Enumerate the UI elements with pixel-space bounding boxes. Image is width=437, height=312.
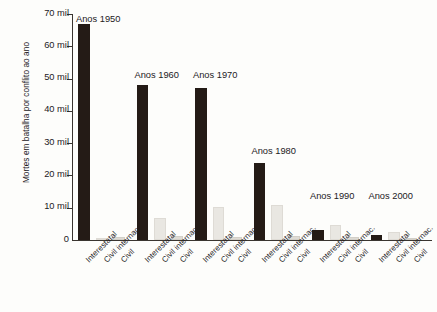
group-label-anos-1970: Anos 1970 xyxy=(193,70,237,80)
y-tick-label: 70 mil xyxy=(44,8,69,18)
y-axis-title: Mortes em batalha por conflito ao ano xyxy=(22,13,31,213)
group-label-anos-1960: Anos 1960 xyxy=(135,70,179,80)
bar-interestatal-anos-1950 xyxy=(78,24,90,240)
y-tick-label: 10 mil xyxy=(44,201,69,211)
y-tick-label: 0 xyxy=(64,234,69,244)
battle-deaths-bar-chart: Mortes em batalha por conflito ao ano 70… xyxy=(0,0,437,312)
y-tick-label: 60 mil xyxy=(44,40,69,50)
y-tick-label: 20 mil xyxy=(44,169,69,179)
y-axis-line xyxy=(72,14,73,241)
y-tick-label: 50 mil xyxy=(44,72,69,82)
bar-interestatal-anos-1970 xyxy=(195,88,207,240)
bar-civil-internac-anos-1980 xyxy=(271,205,283,240)
group-label-anos-1990: Anos 1990 xyxy=(310,191,354,201)
group-label-anos-1950: Anos 1950 xyxy=(76,14,120,24)
bar-interestatal-anos-1960 xyxy=(137,85,149,240)
y-tick-label: 40 mil xyxy=(44,104,69,114)
group-label-anos-1980: Anos 1980 xyxy=(252,146,296,156)
y-tick-label: 30 mil xyxy=(44,137,69,147)
plot-area: 70 mil60 mil50 mil40 mil30 mil20 mil10 m… xyxy=(72,14,432,240)
group-label-anos-2000: Anos 2000 xyxy=(369,191,413,201)
bar-interestatal-anos-2000 xyxy=(371,235,383,240)
